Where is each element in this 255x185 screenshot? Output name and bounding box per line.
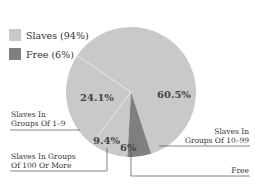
legend-swatch-free — [9, 48, 21, 60]
pct-groups-10-99: 60.5% — [157, 89, 191, 100]
pct-groups-1-9: 24.1% — [80, 92, 114, 103]
legend-swatch-slaves — [9, 29, 21, 41]
label-groups-100: Slaves In Groups Of 100 Or More — [11, 152, 76, 170]
legend-item-free: Free (6%) — [9, 48, 74, 60]
legend-label-slaves: Slaves (94%) — [26, 30, 89, 41]
legend-label-free: Free (6%) — [26, 49, 74, 60]
label-line: Groups Of 1–9 — [11, 119, 66, 128]
pct-groups-100: 9.4% — [93, 135, 120, 146]
label-line: Groups Of 10–99 — [185, 136, 249, 145]
label-line: Free — [231, 166, 249, 175]
label-line: Slaves In — [185, 127, 249, 136]
pct-free: 6% — [120, 142, 137, 153]
legend-item-slaves: Slaves (94%) — [9, 29, 89, 41]
label-free: Free — [231, 166, 249, 175]
label-groups-1-9: Slaves In Groups Of 1–9 — [11, 110, 66, 128]
label-line: Slaves In — [11, 110, 66, 119]
label-groups-10-99: Slaves In Groups Of 10–99 — [185, 127, 249, 145]
label-line: Of 100 Or More — [11, 161, 76, 170]
label-line: Slaves In Groups — [11, 152, 76, 161]
